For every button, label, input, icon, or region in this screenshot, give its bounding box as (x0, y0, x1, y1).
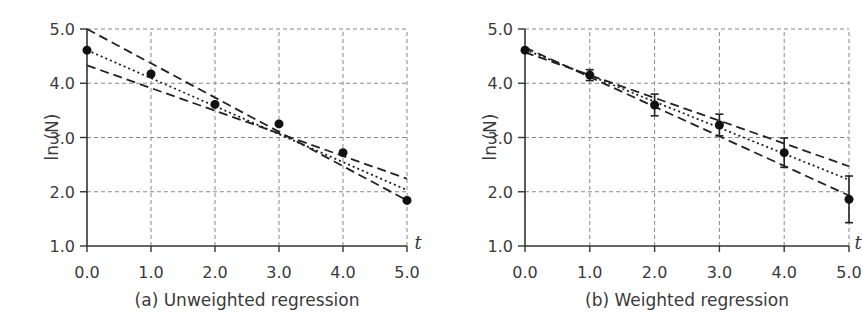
data-point (211, 100, 220, 109)
x-tick-label: 1.0 (577, 263, 602, 282)
fit-line-dashed (87, 29, 407, 200)
data-point (585, 71, 594, 80)
x-tick-label: 1.0 (138, 263, 163, 282)
chart-caption: (b) Weighted regression (585, 290, 789, 310)
data-point (275, 119, 284, 128)
x-tick-label: 2.0 (642, 263, 667, 282)
data-point (780, 148, 789, 157)
data-point (83, 46, 92, 55)
y-tick-label: 5.0 (50, 20, 75, 39)
y-tick-label: 4.0 (488, 74, 513, 93)
x-tick-label: 0.0 (512, 263, 537, 282)
fit-line-dashed (525, 52, 849, 166)
data-point (845, 195, 854, 204)
fit-line-dashed (525, 47, 849, 195)
y-axis-label: ln (N) (42, 114, 62, 161)
y-tick-label: 2.0 (488, 183, 513, 202)
fit-line-dotted (525, 50, 849, 180)
data-point (715, 121, 724, 130)
x-tick-label: 0.0 (74, 263, 99, 282)
x-tick-label: 4.0 (771, 263, 796, 282)
y-tick-label: 2.0 (50, 183, 75, 202)
chart-panel-a: 1.02.03.04.05.00.01.02.03.04.05.0tln (N)… (42, 20, 422, 310)
chart-caption: (a) Unweighted regression (135, 290, 360, 310)
grid (525, 29, 849, 246)
chart-panel-b: 1.02.03.04.05.00.01.02.03.04.05.0tln (N)… (480, 20, 862, 310)
x-tick-label: 3.0 (266, 263, 291, 282)
x-tick-label: 4.0 (330, 263, 355, 282)
data-point (521, 46, 530, 55)
x-tick-label: 5.0 (836, 263, 861, 282)
data-point (339, 148, 348, 157)
data-point (403, 196, 412, 205)
y-tick-label: 1.0 (50, 237, 75, 256)
x-axis-label: t (414, 232, 422, 253)
x-axis-label: t (854, 232, 862, 253)
y-tick-label: 5.0 (488, 20, 513, 39)
x-tick-label: 3.0 (707, 263, 732, 282)
fit-line-dashed (87, 65, 407, 178)
data-point (147, 70, 156, 79)
x-tick-label: 5.0 (394, 263, 419, 282)
fit-line-dotted (87, 50, 407, 190)
y-axis-label: ln (N) (480, 114, 500, 161)
y-tick-label: 1.0 (488, 237, 513, 256)
x-tick-label: 2.0 (202, 263, 227, 282)
y-tick-label: 4.0 (50, 74, 75, 93)
chart-canvas: 1.02.03.04.05.00.01.02.03.04.05.0tln (N)… (0, 0, 863, 329)
data-point (650, 100, 659, 109)
grid (87, 29, 407, 246)
